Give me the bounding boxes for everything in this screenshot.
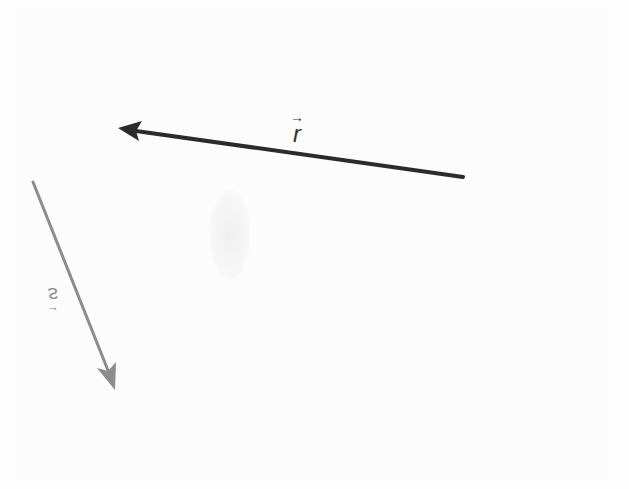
vector-r-label: → r bbox=[293, 122, 301, 146]
vector-arrow-accent-icon: → bbox=[290, 110, 304, 124]
vector-s-letter: s bbox=[48, 284, 58, 306]
vector-s bbox=[33, 182, 116, 390]
vector-diagram bbox=[0, 0, 629, 489]
vector-r bbox=[118, 121, 463, 177]
vector-s-label: → s bbox=[48, 285, 58, 305]
vector-arrow-accent-icon: → bbox=[47, 305, 59, 317]
vector-s-shaft bbox=[33, 182, 109, 373]
